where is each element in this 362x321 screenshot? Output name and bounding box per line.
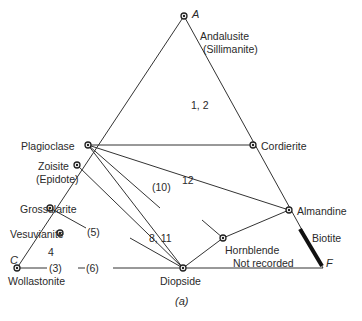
field-6-label: (6): [86, 262, 99, 274]
figure-caption: (a): [175, 295, 188, 307]
field-5-label: (5): [87, 226, 100, 238]
tie-hornblende-almandine: [223, 210, 289, 238]
sillimanite-label: (Sillimanite): [203, 43, 258, 55]
vertex-a-label: A: [192, 8, 199, 20]
epidote-label: (Epidote): [36, 173, 79, 185]
zoisite-label: Zoisite: [38, 160, 69, 172]
tie-plagioclase-10: [88, 145, 160, 208]
tie-10-hornblende: [202, 220, 223, 238]
wollastonite-label: Wollastonite: [8, 275, 65, 287]
almandine-label: Almandine: [297, 205, 347, 217]
plagioclase-label: Plagioclase: [21, 140, 75, 152]
not-recorded-label: Not recorded: [233, 257, 294, 269]
biotite-label: Biotite: [312, 232, 341, 244]
vesuvianite-label: Vesuvianite: [10, 228, 64, 240]
tie-plagioclase-diopside: [88, 145, 183, 268]
cordierite-label: Cordierite: [261, 140, 307, 152]
field-12-label: 12: [182, 174, 194, 186]
andalusite-label: Andalusite: [200, 30, 249, 42]
diopside-label: Diopside: [160, 275, 201, 287]
vertex-f-label: F: [326, 257, 333, 269]
hornblende-label: Hornblende: [225, 244, 279, 256]
tie-diopside-hornblende: [183, 238, 223, 268]
field-1-2-label: 1, 2: [191, 99, 209, 111]
field-10-label: (10): [152, 181, 171, 193]
field-4-label: 4: [48, 246, 54, 258]
vertex-c-label: C: [10, 254, 18, 266]
field-8-11-label: 8, 11: [149, 232, 172, 244]
field-3-label: (3): [49, 262, 62, 274]
grossularite-label: Grossularite: [20, 203, 77, 215]
